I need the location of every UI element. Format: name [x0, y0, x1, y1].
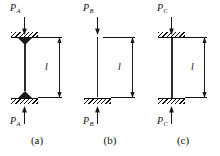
- column-shaft-a: [24, 44, 26, 91]
- hatching-bottom-a: [11, 99, 38, 104]
- hatching-bottom-b: [84, 99, 111, 104]
- dimension-line-a: [55, 37, 64, 98]
- dimension-line-b: [128, 37, 137, 98]
- column-case-a: PA PA: [0, 0, 74, 156]
- length-label-c: l: [191, 62, 194, 72]
- column-shaft-b: [97, 37, 99, 97]
- length-label-a: l: [45, 62, 48, 72]
- dimension-line-c: [200, 37, 209, 98]
- load-arrow-bottom-c: [168, 106, 175, 124]
- caption-a: (a): [0, 134, 74, 146]
- column-shaft-c: [171, 38, 173, 98]
- load-arrow-bottom-a: [21, 106, 28, 124]
- length-label-b: l: [118, 62, 121, 72]
- pin-triangle-bottom-a: [18, 91, 32, 98]
- column-case-b: PB PB l (b): [73, 0, 147, 156]
- load-label-bottom-c: PC: [157, 116, 167, 126]
- caption-c: (c): [146, 134, 220, 146]
- load-label-top-c: PC: [157, 3, 167, 13]
- caption-b: (b): [73, 134, 147, 146]
- load-label-bottom-a: PA: [10, 116, 20, 126]
- load-arrow-bottom-b: [94, 106, 101, 124]
- load-arrow-top-b: [94, 17, 101, 35]
- load-label-top-b: PB: [83, 3, 93, 13]
- load-label-bottom-b: PB: [83, 116, 93, 126]
- column-buckling-figure: PA PA: [0, 0, 220, 156]
- hatching-bottom-c: [158, 99, 185, 104]
- column-case-c: PC PC l (c): [146, 0, 220, 156]
- load-label-top-a: PA: [10, 3, 20, 13]
